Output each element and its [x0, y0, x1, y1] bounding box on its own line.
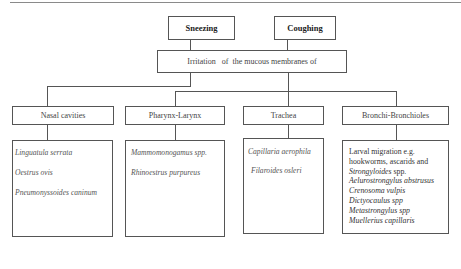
parasite-box-pharynx: Mammomonogamus spp. Rhinoestrus purpureu…: [125, 140, 225, 237]
site-box-bronchi: Bronchi-Bronchioles: [342, 106, 449, 125]
strongyloides-genus: Strongyloides: [349, 167, 392, 176]
site-label-trachea: Trachea: [271, 111, 296, 120]
parasite-box-bronchi: Larval migration e.g. hookworms, ascarid…: [342, 140, 449, 234]
connector-lower-horizontal: [175, 91, 397, 92]
parasite-item: Mammomonogamus spp.: [131, 148, 224, 157]
coughing-box: Coughing: [274, 16, 336, 40]
site-box-trachea: Trachea: [243, 106, 324, 125]
connector-pharynx-drop: [175, 91, 176, 106]
bronchi-intro-line-1: Larval migration e.g.: [349, 147, 448, 157]
site-label-nasal: Nasal cavities: [41, 111, 86, 120]
connector-trachea-detail: [288, 125, 289, 138]
connector-nasal-horizontal: [47, 86, 191, 87]
parasite-item: Pneumonyssoides caninum: [15, 188, 112, 197]
parasite-item: Aelurostrongylus abstrusus: [349, 176, 448, 186]
site-box-pharynx: Pharynx-Larynx: [125, 106, 225, 125]
connector-bronchi-detail: [396, 125, 397, 140]
parasite-item: Linguatula serrata: [15, 148, 112, 157]
parasite-item: Dictyocaulus spp: [349, 196, 448, 206]
strongyloides-line: Strongyloides spp.: [349, 167, 448, 177]
site-label-bronchi: Bronchi-Bronchioles: [362, 111, 429, 120]
sneezing-label: Sneezing: [185, 23, 217, 33]
site-label-pharynx: Pharynx-Larynx: [149, 111, 201, 120]
irritation-box: Irritation of the mucous membranes of: [157, 50, 347, 73]
connector-sneezing: [190, 40, 191, 50]
irritation-label: Irritation of the mucous membranes of: [187, 57, 316, 66]
connector-nasal-drop: [47, 86, 48, 106]
parasite-item: Crenosoma vulpis: [349, 186, 448, 196]
site-box-nasal: Nasal cavities: [12, 106, 114, 125]
parasite-item: Oestrus ovis: [15, 168, 112, 177]
parasite-item: Rhinoestrus purpureus: [131, 168, 224, 177]
connector-pharynx-detail: [175, 125, 176, 140]
parasite-item: Filaroides osleri: [248, 166, 323, 175]
sneezing-box: Sneezing: [168, 16, 235, 40]
bronchi-intro-line-2: hookworms, ascarids and: [349, 157, 448, 167]
parasite-box-nasal: Linguatula serrata Oestrus ovis Pneumony…: [12, 140, 113, 237]
connector-cause-right-stub: [288, 73, 289, 106]
parasite-item: Capillaria aerophila: [248, 147, 323, 156]
connector-coughing: [287, 40, 288, 50]
parasite-item: Muellerius capillaris: [349, 216, 448, 226]
parasite-item: Metastrongylus spp: [349, 206, 448, 216]
strongyloides-suffix: spp.: [392, 167, 407, 176]
parasite-box-trachea: Capillaria aerophila Filaroides osleri: [243, 138, 324, 234]
connector-nasal-detail: [47, 125, 48, 140]
coughing-label: Coughing: [287, 23, 322, 33]
page-header-rule: [10, 2, 461, 3]
connector-cause-left-stub: [190, 73, 191, 87]
connector-bronchi-drop: [396, 91, 397, 106]
